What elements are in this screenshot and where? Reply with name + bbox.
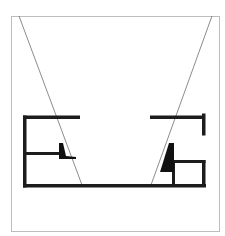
plan-diagram (0, 0, 225, 236)
diagram-frame (12, 17, 220, 232)
left-top-wall (23, 116, 80, 120)
left-vertical-wall (23, 116, 27, 188)
left-middle-wall (23, 152, 61, 155)
floor-wall (23, 184, 206, 188)
right-box-side-wall (202, 160, 206, 187)
right-top-wall (150, 116, 205, 120)
right-box-top-wall (172, 160, 206, 163)
right-end-post (202, 114, 206, 136)
